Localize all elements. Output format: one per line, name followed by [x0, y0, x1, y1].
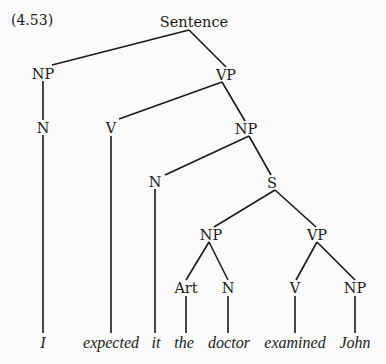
node-n1: N: [37, 121, 50, 136]
terminal-w-examined: examined: [264, 335, 325, 351]
node-n3: N: [222, 281, 235, 296]
tree-branch: [189, 30, 226, 67]
node-n2: N: [149, 175, 162, 190]
node-sentence: Sentence: [160, 15, 228, 30]
node-art: Art: [174, 281, 197, 296]
terminal-w-i: I: [40, 335, 45, 351]
tree-branch: [275, 190, 316, 227]
tree-branch: [214, 190, 275, 227]
node-np1: NP: [32, 67, 54, 82]
terminal-w-john: John: [339, 335, 370, 351]
tree-branch: [296, 242, 317, 280]
terminal-w-the: the: [174, 335, 194, 351]
node-np2: NP: [235, 122, 257, 137]
tree-branch: [52, 30, 189, 65]
tree-branches: [0, 0, 386, 364]
tree-branch: [119, 82, 222, 119]
node-np3: NP: [200, 228, 222, 243]
terminal-w-expected: expected: [83, 335, 139, 351]
node-np4: NP: [344, 281, 366, 296]
node-vp1: VP: [216, 68, 236, 83]
tree-branch: [317, 242, 355, 280]
terminal-w-doctor: doctor: [208, 335, 250, 351]
tree-branch: [222, 82, 245, 121]
tree-branch: [186, 242, 209, 280]
node-vp2: VP: [307, 228, 327, 243]
syntax-tree-diagram: (4.53) SentenceNPVPNVNPNSNPVPArtNVNPIexp…: [0, 0, 386, 364]
node-v2: V: [290, 281, 300, 296]
tree-branch: [209, 242, 228, 280]
terminal-w-it: it: [152, 335, 161, 351]
tree-branch: [165, 136, 249, 175]
node-s: S: [267, 176, 277, 191]
node-v1: V: [106, 121, 116, 136]
tree-branch: [249, 136, 271, 175]
